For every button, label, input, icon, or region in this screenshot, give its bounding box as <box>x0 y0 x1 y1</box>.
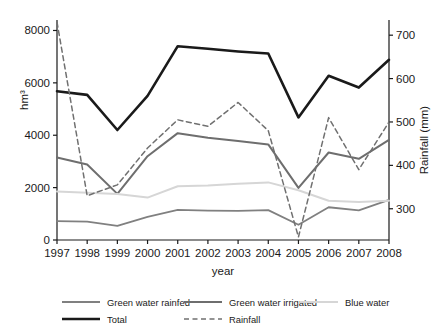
legend-label-total: Total <box>107 314 127 325</box>
legend-label-blue-water: Blue water <box>345 297 389 308</box>
x-tick-label: 1998 <box>74 247 100 259</box>
x-tick-label: 2007 <box>346 247 372 259</box>
chart-figure: 02000400060008000 300400500600700 199719… <box>0 0 447 334</box>
right-tick-label: 300 <box>396 203 415 215</box>
x-tick-label: 2006 <box>316 247 342 259</box>
left-tick-label: 8000 <box>24 24 50 36</box>
left-tick-label: 4000 <box>24 129 50 141</box>
water-balance-line-chart: 02000400060008000 300400500600700 199719… <box>0 0 447 334</box>
x-tick-label: 1999 <box>105 247 131 259</box>
right-tick-label: 400 <box>396 159 415 171</box>
x-tick-label: 2000 <box>135 247 161 259</box>
x-tick-label: 2002 <box>195 247 221 259</box>
right-tick-label: 500 <box>396 116 415 128</box>
x-tick-label: 2005 <box>286 247 312 259</box>
x-tick-label: 2004 <box>255 247 281 259</box>
y-axis-left-title: hm³ <box>18 90 30 110</box>
x-tick-label: 2003 <box>225 247 251 259</box>
left-tick-label: 6000 <box>24 77 50 89</box>
right-tick-label: 600 <box>396 73 415 85</box>
right-tick-label: 700 <box>396 29 415 41</box>
x-axis-title: year <box>212 265 235 277</box>
x-tick-label: 2008 <box>376 247 402 259</box>
legend-label-green-water-rainfed: Green water rainfed <box>107 297 190 308</box>
x-tick-label: 1997 <box>44 247 70 259</box>
x-tick-label: 2001 <box>165 247 191 259</box>
legend-label-rainfall: Rainfall <box>229 314 260 325</box>
left-tick-label: 2000 <box>24 182 50 194</box>
y-axis-right-title: Rainfall (mm) <box>418 106 430 175</box>
left-tick-label: 0 <box>44 234 50 246</box>
